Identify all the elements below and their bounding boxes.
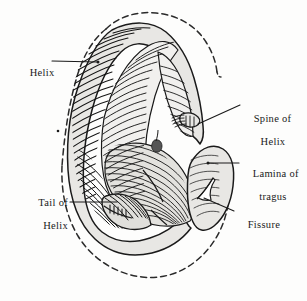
label-tail-of-helix: Tail of Helix — [6, 185, 68, 254]
cavum-detail — [152, 130, 162, 152]
label-lamina-of-tragus-line2: tragus — [241, 191, 305, 203]
label-tail-of-helix-line1: Tail of — [38, 197, 68, 208]
label-helix-line1: Helix — [30, 67, 55, 78]
anatomical-figure: Helix Tail of Helix Spine of Helix Lamin… — [0, 0, 307, 301]
leader-spine-of-helix — [198, 105, 240, 124]
lamina-of-tragus — [188, 146, 234, 230]
label-spine-of-helix-line1: Spine of — [254, 113, 292, 124]
label-tail-of-helix-line2: Helix — [6, 220, 68, 232]
label-fissure-line1: Fissure — [248, 219, 280, 230]
label-lamina-of-tragus-line1: Lamina of — [253, 168, 299, 179]
label-fissure: Fissure — [236, 207, 280, 242]
reference-dot — [57, 130, 60, 133]
label-helix: Helix — [18, 55, 55, 90]
auricular-cartilage-body — [57, 23, 234, 255]
label-spine-of-helix-line2: Helix — [242, 136, 304, 148]
